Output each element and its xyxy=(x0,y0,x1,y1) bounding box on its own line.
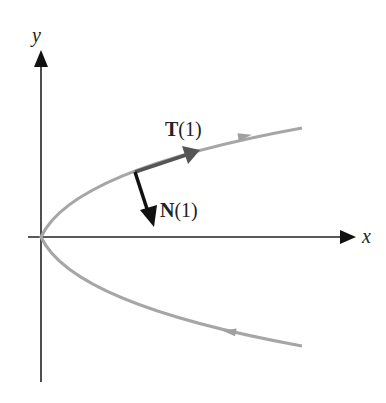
curve-direction-arrow-lower-icon xyxy=(221,326,236,337)
x-axis-label: x xyxy=(361,225,371,247)
normal-label: N(1) xyxy=(160,199,198,222)
x-axis-arrow-icon xyxy=(340,230,356,244)
x-axis xyxy=(28,230,356,244)
normal-label-name: N xyxy=(160,199,175,221)
tangent-label: T(1) xyxy=(165,118,202,141)
diagram-canvas: y x T(1) N(1) xyxy=(0,0,386,403)
y-axis-label: y xyxy=(30,24,41,47)
y-axis xyxy=(34,50,48,382)
tangent-label-arg: (1) xyxy=(178,118,201,141)
y-axis-arrow-icon xyxy=(34,50,48,67)
normal-label-arg: (1) xyxy=(174,199,197,222)
tangent-label-name: T xyxy=(165,118,179,140)
normal-vector xyxy=(135,172,157,227)
normal-arrowhead-icon xyxy=(140,205,157,227)
